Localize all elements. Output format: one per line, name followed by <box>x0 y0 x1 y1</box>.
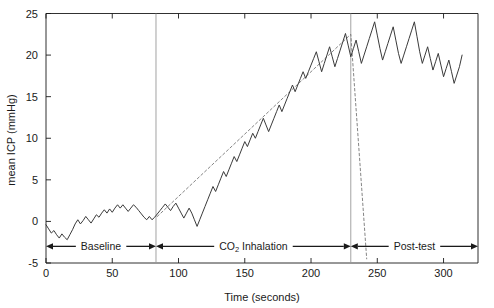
annotation-label: Post-test <box>394 240 436 252</box>
icp-time-series-chart: -50510152025 050100150200250300 Baseline… <box>0 0 494 308</box>
y-tick-label: 0 <box>32 215 38 227</box>
y-tick-label: 25 <box>26 8 38 20</box>
x-tick-label: 50 <box>106 267 118 279</box>
y-tick-label: 10 <box>26 132 38 144</box>
x-tick-label: 300 <box>434 267 452 279</box>
y-tick-label: 20 <box>26 49 38 61</box>
y-tick-label: -5 <box>28 257 38 269</box>
figure-background <box>0 0 494 308</box>
x-tick-label: 100 <box>169 267 187 279</box>
y-axis-label: mean ICP (mmHg) <box>5 94 17 185</box>
annotation-label: Baseline <box>81 240 121 252</box>
chart-figure: -50510152025 050100150200250300 Baseline… <box>0 0 494 308</box>
x-tick-label: 150 <box>236 267 254 279</box>
x-tick-label: 200 <box>302 267 320 279</box>
x-axis-label: Time (seconds) <box>224 291 299 303</box>
y-tick-label: 15 <box>26 91 38 103</box>
y-tick-label: 5 <box>32 174 38 186</box>
x-tick-label: 0 <box>43 267 49 279</box>
x-tick-label: 250 <box>368 267 386 279</box>
